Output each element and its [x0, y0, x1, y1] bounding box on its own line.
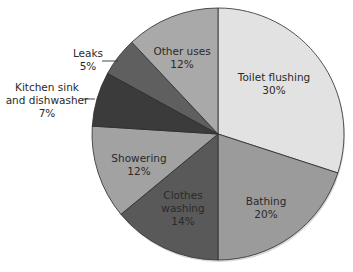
slice-percent: 20%: [246, 208, 287, 221]
water-usage-pie-chart: [0, 0, 353, 272]
slice-label: Kitchen sinkand dishwasher7%: [6, 81, 89, 120]
slice-percent: 12%: [153, 58, 210, 71]
slice-percent: 5%: [73, 60, 103, 73]
slice-label: Clotheswashing14%: [161, 189, 204, 228]
slice-label: Leaks5%: [73, 47, 103, 73]
slice-percent: 7%: [6, 107, 89, 120]
slice-label: Bathing20%: [246, 195, 287, 221]
slice-name: Kitchen sink: [6, 81, 89, 94]
slice-name: Bathing: [246, 195, 287, 208]
slice-percent: 30%: [238, 84, 310, 97]
slice-name: Showering: [111, 152, 166, 165]
slice-name: Toilet flushing: [238, 71, 310, 84]
slice-percent: 12%: [111, 165, 166, 178]
slice-label: Toilet flushing30%: [238, 71, 310, 97]
slice-name: washing: [161, 202, 204, 215]
slice-label: Showering12%: [111, 152, 166, 178]
slice-name: and dishwasher: [6, 94, 89, 107]
slice-name: Leaks: [73, 47, 103, 60]
slice-percent: 14%: [161, 215, 204, 228]
slice-name: Clothes: [161, 189, 204, 202]
slice-label: Other uses12%: [153, 45, 210, 71]
slice-name: Other uses: [153, 45, 210, 58]
